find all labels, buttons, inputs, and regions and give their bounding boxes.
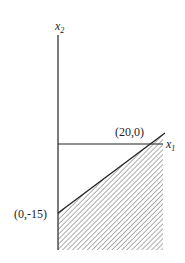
hatched-region [58, 135, 163, 250]
point-label-20-0: (20,0) [115, 125, 144, 139]
x1-axis-label: x1 [165, 137, 175, 153]
x2-axis-label: x2 [54, 19, 64, 35]
point-label-0-neg15: (0,-15) [14, 207, 47, 221]
diagram-canvas: x2 x1 (20,0) (0,-15) [0, 0, 185, 263]
